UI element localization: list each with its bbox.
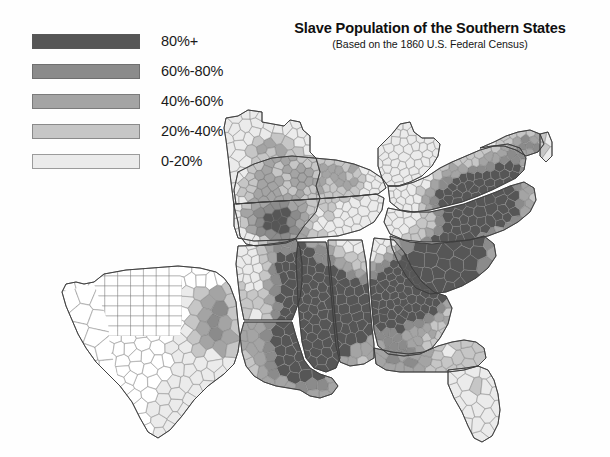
county-unorganized — [131, 296, 144, 306]
county — [328, 377, 354, 414]
county — [178, 402, 256, 454]
county-unorganized — [131, 306, 144, 316]
map-svg — [48, 86, 610, 454]
county-unorganized — [143, 296, 156, 306]
county — [81, 423, 154, 454]
county — [183, 392, 245, 444]
county — [48, 382, 134, 452]
county — [424, 365, 435, 388]
county — [461, 270, 509, 310]
county — [391, 137, 400, 146]
county — [472, 324, 502, 353]
county — [434, 106, 456, 151]
county-unorganized — [118, 316, 131, 326]
county — [303, 145, 327, 156]
county-unorganized — [105, 286, 118, 296]
county-unorganized — [143, 306, 156, 316]
county — [545, 116, 568, 146]
county-unorganized — [169, 316, 182, 326]
county — [523, 171, 552, 196]
county — [200, 380, 256, 454]
county — [443, 308, 468, 317]
county — [48, 413, 151, 454]
county-unorganized — [105, 296, 118, 306]
county — [304, 106, 336, 147]
county — [362, 135, 385, 158]
map-title: Slave Population of the Southern States — [258, 20, 602, 36]
county — [79, 389, 141, 435]
county-unorganized — [156, 316, 169, 326]
county — [163, 420, 219, 454]
county — [272, 108, 283, 134]
county — [256, 94, 285, 122]
county-unorganized — [118, 296, 131, 306]
county — [452, 128, 474, 160]
county — [48, 358, 106, 448]
county-unorganized — [169, 306, 182, 316]
county-unorganized — [156, 296, 169, 306]
county — [318, 390, 353, 414]
legend-swatch-80-plus — [32, 34, 140, 49]
county — [214, 365, 256, 427]
county-unorganized — [169, 276, 182, 286]
county — [113, 341, 124, 356]
county-unorganized — [143, 316, 156, 326]
county — [294, 137, 306, 147]
county — [504, 114, 517, 139]
county — [432, 396, 466, 428]
county-unorganized — [156, 306, 169, 316]
county-unorganized — [169, 296, 182, 306]
county-layer — [48, 94, 568, 454]
county-unorganized — [118, 326, 131, 336]
county-unorganized — [156, 276, 169, 286]
county — [324, 140, 334, 166]
county — [362, 106, 392, 145]
county — [208, 94, 242, 123]
county — [424, 106, 451, 144]
county — [484, 114, 510, 141]
county — [414, 363, 426, 388]
county — [520, 206, 552, 248]
county — [48, 375, 125, 452]
map-figure: 80%+ 60%-80% 40%-60% 20%-40% 0-20% Slave… — [0, 0, 610, 457]
county — [233, 376, 275, 414]
county-unorganized — [56, 360, 99, 396]
county-unorganized — [56, 319, 89, 355]
county-unorganized — [131, 316, 144, 326]
county — [434, 366, 447, 388]
county-unorganized — [131, 286, 144, 296]
title-block: Slave Population of the Southern States … — [258, 20, 602, 51]
county — [403, 106, 433, 130]
legend-label-60-80: 60%-80% — [161, 64, 223, 79]
county — [407, 106, 435, 135]
county-unorganized — [169, 286, 182, 296]
legend-swatch-60-80 — [32, 64, 140, 79]
county-unorganized — [131, 326, 144, 336]
county-unorganized — [169, 326, 182, 336]
legend-label-80-plus: 80%+ — [161, 34, 198, 49]
county — [454, 277, 489, 310]
county-unorganized — [143, 326, 156, 336]
county — [510, 216, 552, 258]
county-unorganized — [118, 276, 131, 286]
county-unorganized — [56, 343, 98, 370]
county — [432, 383, 462, 409]
county-unorganized — [105, 306, 118, 316]
legend-item: 60%-80% — [32, 56, 247, 86]
county — [494, 226, 516, 258]
county-unorganized — [105, 266, 118, 276]
county-unorganized — [156, 326, 169, 336]
county-unorganized — [131, 276, 144, 286]
county — [442, 128, 468, 163]
county — [437, 128, 462, 167]
choropleth-map — [48, 86, 610, 454]
county — [192, 250, 221, 275]
county — [275, 376, 288, 403]
county — [224, 364, 259, 414]
county-unorganized — [118, 306, 131, 316]
legend-item: 80%+ — [32, 26, 247, 56]
map-subtitle: (Based on the 1860 U.S. Federal Census) — [258, 39, 602, 51]
county — [490, 417, 516, 455]
county-unorganized — [105, 276, 118, 286]
county-unorganized — [143, 276, 156, 286]
